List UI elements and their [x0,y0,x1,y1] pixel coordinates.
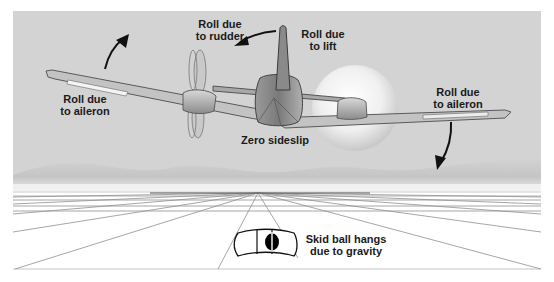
label-roll-due-to-lift: Roll due to lift [293,28,353,52]
label-roll-due-to-aileron-left: Roll due to aileron [52,93,118,117]
left-engine-nacelle [183,90,216,114]
right-engine-nacelle [337,98,367,120]
label-roll-due-to-aileron-right: Roll due to aileron [425,86,491,110]
label-zero-sideslip: Zero sideslip [230,134,320,146]
skid-ball-indicator [234,229,297,256]
label-skid-ball: Skid ball hangs due to gravity [303,233,389,257]
label-roll-due-to-rudder: Roll due to rudder [180,18,260,42]
